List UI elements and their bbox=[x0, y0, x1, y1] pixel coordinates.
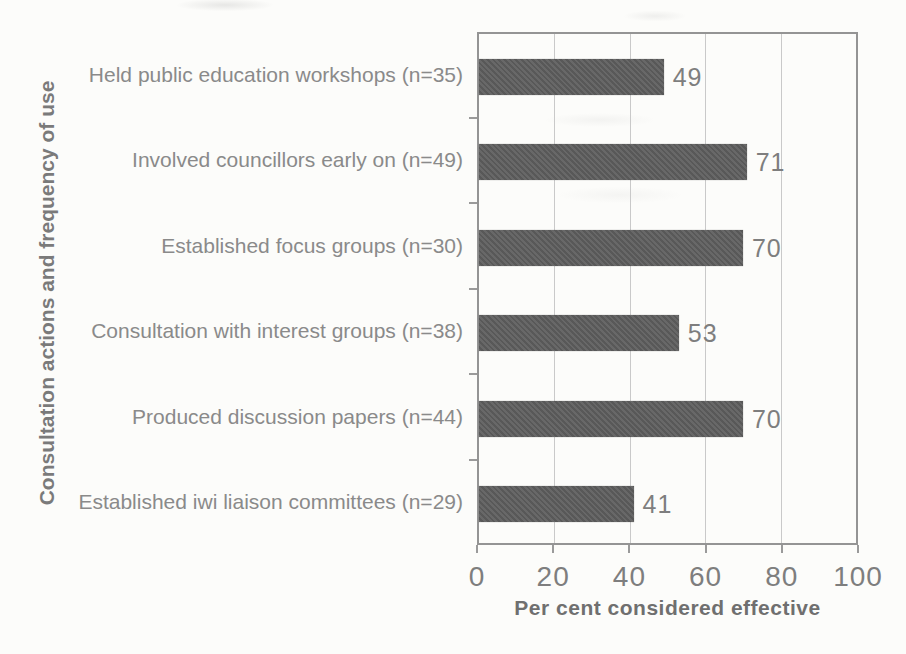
x-tick-label: 100 bbox=[813, 561, 903, 593]
bar bbox=[479, 315, 679, 351]
category-label: Involved councillors early on (n=49) bbox=[33, 118, 463, 204]
bar bbox=[479, 486, 634, 522]
bar-value-label: 49 bbox=[673, 64, 703, 89]
bar bbox=[479, 230, 743, 266]
bar-row: 71 bbox=[479, 120, 856, 206]
bar-row: 41 bbox=[479, 462, 856, 548]
bar bbox=[479, 401, 743, 437]
bar-value-label: 70 bbox=[752, 235, 782, 260]
bar-value-label: 41 bbox=[643, 492, 673, 517]
bar-value-label: 53 bbox=[688, 321, 718, 346]
category-label: Established focus groups (n=30) bbox=[33, 203, 463, 289]
category-label: Held public education workshops (n=35) bbox=[33, 32, 463, 118]
x-axis-tick bbox=[705, 545, 707, 553]
bar-row: 49 bbox=[479, 34, 856, 120]
x-axis-tick bbox=[857, 545, 859, 553]
y-axis-tick bbox=[469, 459, 477, 461]
bar-value-label: 71 bbox=[756, 150, 786, 175]
category-label: Established iwi liaison committees (n=29… bbox=[33, 460, 463, 546]
bar bbox=[479, 144, 747, 180]
y-axis-tick bbox=[469, 288, 477, 290]
bar-chart-figure: Consultation actions and frequency of us… bbox=[0, 0, 906, 654]
bar-row: 70 bbox=[479, 205, 856, 291]
category-label: Produced discussion papers (n=44) bbox=[33, 374, 463, 460]
x-axis-tick bbox=[476, 545, 478, 553]
plot-area: 497170537041 bbox=[477, 32, 858, 545]
y-axis-tick bbox=[469, 202, 477, 204]
bar-row: 53 bbox=[479, 291, 856, 377]
x-axis-tick bbox=[628, 545, 630, 553]
x-axis-tick bbox=[552, 545, 554, 553]
category-label: Consultation with interest groups (n=38) bbox=[33, 289, 463, 375]
y-axis-tick bbox=[469, 373, 477, 375]
bar-row: 70 bbox=[479, 376, 856, 462]
x-axis-tick bbox=[781, 545, 783, 553]
y-axis-tick bbox=[469, 117, 477, 119]
bar-value-label: 70 bbox=[752, 406, 782, 431]
bar bbox=[479, 59, 664, 95]
x-axis-title: Per cent considered effective bbox=[477, 596, 858, 620]
